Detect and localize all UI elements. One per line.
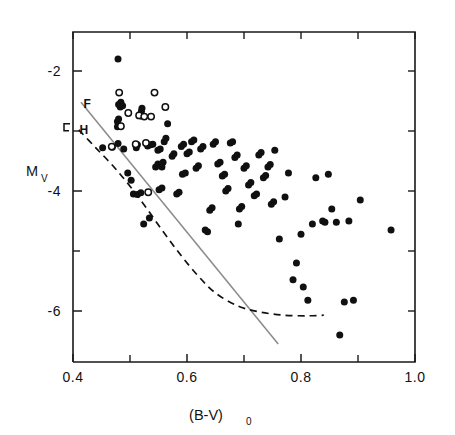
x-axis-tick-labels: 0.40.60.81.0 bbox=[63, 369, 426, 385]
data-point-open bbox=[118, 123, 124, 129]
data-point-filled bbox=[162, 135, 169, 142]
data-points-filled bbox=[99, 56, 394, 339]
data-point-filled bbox=[243, 162, 250, 169]
data-point-open bbox=[116, 89, 122, 95]
data-point-filled bbox=[271, 147, 278, 154]
data-point-filled bbox=[199, 143, 206, 150]
data-point-filled bbox=[336, 332, 343, 339]
data-point-open bbox=[162, 104, 168, 110]
data-point-filled bbox=[253, 191, 260, 198]
data-point-filled bbox=[195, 162, 202, 169]
data-point-filled bbox=[328, 206, 335, 213]
h-curve-label: H bbox=[80, 123, 89, 137]
x-axis-title: (B-V) 0 bbox=[189, 407, 252, 427]
data-point-filled bbox=[115, 56, 122, 63]
x-tick-label: 0.4 bbox=[63, 369, 84, 385]
data-point-filled bbox=[137, 189, 144, 196]
data-point-filled bbox=[229, 138, 236, 145]
data-point-filled bbox=[160, 159, 167, 166]
data-point-filled bbox=[115, 116, 122, 123]
scatter-plot-figure: -6-4-2 0.40.60.81.0 HF M V (B-V) 0 bbox=[0, 0, 455, 435]
data-point-filled bbox=[209, 204, 216, 211]
data-point-filled bbox=[293, 260, 300, 267]
data-point-filled bbox=[182, 170, 189, 177]
reference-curves bbox=[79, 102, 324, 344]
data-point-filled bbox=[309, 221, 316, 228]
data-point-filled bbox=[267, 161, 274, 168]
data-point-filled bbox=[164, 120, 171, 127]
data-point-filled bbox=[128, 177, 135, 184]
data-point-filled bbox=[186, 149, 193, 156]
y-axis-title-main: M bbox=[26, 163, 38, 179]
data-point-filled bbox=[262, 172, 269, 179]
data-point-filled bbox=[285, 170, 292, 177]
data-point-filled bbox=[117, 99, 124, 106]
data-point-filled bbox=[357, 197, 364, 204]
data-point-open bbox=[125, 110, 131, 116]
data-point-filled bbox=[333, 219, 340, 226]
data-point-filled bbox=[298, 231, 305, 238]
data-point-open bbox=[133, 141, 139, 147]
data-point-filled bbox=[138, 105, 145, 112]
h-axis-bracket bbox=[64, 124, 70, 131]
data-point-filled bbox=[235, 221, 242, 228]
data-point-open bbox=[145, 189, 151, 195]
data-point-filled bbox=[304, 297, 311, 304]
f-curve-label: F bbox=[84, 97, 91, 111]
data-point-filled bbox=[276, 236, 283, 243]
data-point-open bbox=[148, 113, 154, 119]
data-point-filled bbox=[120, 146, 127, 153]
data-point-filled bbox=[190, 137, 197, 144]
x-axis-title-main: (B-V) bbox=[189, 407, 223, 423]
data-point-filled bbox=[180, 141, 187, 148]
y-axis-tick-labels: -6-4-2 bbox=[48, 63, 61, 319]
y-tick-label: -2 bbox=[48, 63, 61, 79]
x-tick-label: 0.8 bbox=[291, 369, 312, 385]
data-point-filled bbox=[124, 170, 131, 177]
data-point-filled bbox=[157, 146, 164, 153]
data-point-filled bbox=[221, 171, 228, 178]
data-point-filled bbox=[234, 152, 241, 159]
data-point-filled bbox=[341, 299, 348, 306]
x-axis-ticks bbox=[73, 32, 415, 362]
data-point-filled bbox=[290, 276, 297, 283]
y-tick-label: -6 bbox=[48, 303, 61, 319]
data-point-filled bbox=[176, 189, 183, 196]
data-point-filled bbox=[247, 179, 254, 186]
data-point-filled bbox=[282, 194, 289, 201]
data-point-open bbox=[151, 89, 157, 95]
data-point-filled bbox=[140, 221, 147, 228]
data-point-filled bbox=[345, 218, 352, 225]
data-point-filled bbox=[170, 150, 177, 157]
y-tick-label: -4 bbox=[48, 183, 61, 199]
data-point-filled bbox=[149, 141, 156, 148]
dashed-curve-h bbox=[79, 130, 324, 316]
data-point-filled bbox=[99, 144, 106, 151]
data-point-filled bbox=[158, 185, 165, 192]
data-point-open bbox=[141, 113, 147, 119]
data-point-open bbox=[109, 143, 115, 149]
data-point-filled bbox=[312, 174, 319, 181]
data-point-filled bbox=[217, 159, 224, 166]
x-axis-title-sub: 0 bbox=[246, 416, 252, 427]
data-point-filled bbox=[146, 215, 153, 222]
data-point-filled bbox=[350, 297, 357, 304]
x-tick-label: 0.6 bbox=[177, 369, 198, 385]
data-point-open bbox=[143, 140, 149, 146]
data-point-filled bbox=[388, 227, 395, 234]
data-point-filled bbox=[270, 198, 277, 205]
data-point-filled bbox=[325, 171, 332, 178]
data-point-filled bbox=[204, 228, 211, 235]
x-tick-label: 1.0 bbox=[405, 369, 426, 385]
y-axis-title: M V bbox=[26, 163, 48, 184]
data-point-filled bbox=[238, 203, 245, 210]
data-point-filled bbox=[212, 138, 219, 145]
plot-svg: -6-4-2 0.40.60.81.0 HF M V (B-V) 0 bbox=[0, 0, 455, 435]
data-point-filled bbox=[321, 219, 328, 226]
data-point-filled bbox=[258, 149, 265, 156]
data-point-filled bbox=[300, 284, 307, 291]
data-point-filled bbox=[225, 185, 232, 192]
y-axis-title-sub: V bbox=[41, 173, 48, 184]
solid-line-f bbox=[81, 102, 278, 344]
plot-frame bbox=[73, 32, 415, 362]
